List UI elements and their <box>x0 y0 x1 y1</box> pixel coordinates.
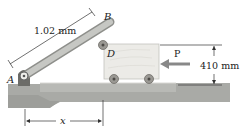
wheel-right-icon <box>145 75 154 84</box>
wheel-left-icon <box>110 75 119 84</box>
force-label: P <box>174 48 181 59</box>
mechanism-diagram: P 410 mm 1.02 mm A B D x <box>0 0 252 138</box>
distance-x-label: x <box>60 115 66 126</box>
height-label: 410 mm <box>200 60 239 71</box>
point-b-label: B <box>103 11 111 22</box>
point-a-label: A <box>6 74 14 85</box>
force-arrow-p <box>160 59 190 69</box>
platform <box>40 83 176 92</box>
bar-length-label: 1.02 mm <box>34 25 76 36</box>
point-d-label: D <box>106 48 115 59</box>
